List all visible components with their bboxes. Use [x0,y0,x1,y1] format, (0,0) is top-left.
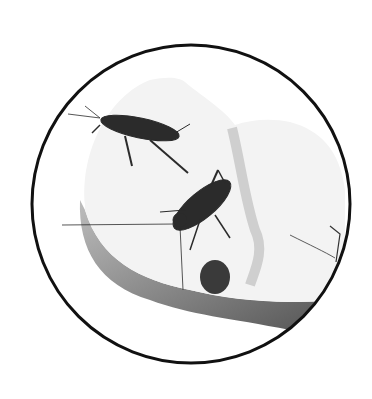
illustration [0,0,372,399]
